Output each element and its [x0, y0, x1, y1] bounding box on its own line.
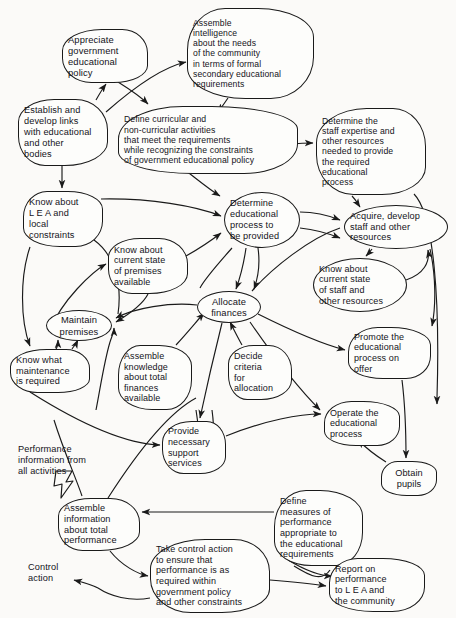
node-label: Allocate finances: [203, 296, 255, 318]
node-label: Determine the staff expertise and other …: [322, 116, 420, 188]
node-obtain-pupils[interactable]: Obtain pupils: [381, 461, 437, 496]
node-take-control-action[interactable]: Take control action to ensure that perfo…: [150, 539, 270, 613]
node-label: Know about current state of premises ava…: [114, 245, 182, 287]
node-label: Report on performance to L E A and the c…: [335, 564, 419, 606]
node-determine-staff-expertise[interactable]: Determine the staff expertise and other …: [316, 108, 426, 195]
node-report-performance[interactable]: Report on performance to L E A and the c…: [329, 558, 425, 612]
node-know-staff-state[interactable]: Know about current state of staff and ot…: [313, 258, 407, 312]
node-establish-links[interactable]: Establish and develop links with educati…: [18, 99, 108, 166]
node-know-lea[interactable]: Know about L E A and local constraints: [23, 191, 103, 247]
node-label: Assemble knowledge about total finances …: [124, 351, 186, 404]
node-maintain-premises[interactable]: Maintain premises: [46, 310, 112, 341]
node-label: Determine educational process to be prov…: [230, 198, 294, 241]
diagram-canvas: Appreciate government educational policy…: [0, 0, 456, 618]
node-acquire-develop-staff[interactable]: Acquire, develop staff and other resourc…: [344, 205, 448, 249]
node-allocate-finances[interactable]: Allocate finances: [197, 291, 261, 323]
node-label: Establish and develop links with educati…: [24, 105, 102, 159]
node-label: Take control action to ensure that perfo…: [156, 544, 264, 608]
label-control-action: Control action: [28, 562, 58, 584]
node-label: Promote the educational process on offer: [354, 332, 425, 374]
node-decide-criteria[interactable]: Decide criteria for allocation: [228, 345, 292, 400]
node-label: Acquire, develop staff and other resourc…: [350, 211, 442, 244]
node-label: Define curricular and non-curricular act…: [124, 114, 292, 165]
node-label: Operate the educational process: [330, 408, 394, 440]
node-define-performance-measures[interactable]: Define measures of performance appropria…: [274, 490, 363, 566]
node-label: Assemble intelligence about the needs of…: [193, 18, 308, 89]
node-label: Assemble information about total perform…: [64, 503, 134, 546]
node-know-maintenance-required[interactable]: Know what maintenance is required: [10, 349, 90, 393]
node-label: Decide criteria for allocation: [234, 351, 286, 393]
node-appreciate-policy[interactable]: Appreciate government educational policy: [62, 29, 148, 83]
node-label: Appreciate government educational policy: [68, 34, 142, 78]
node-label: Know what maintenance is required: [16, 355, 84, 388]
node-assemble-performance-info[interactable]: Assemble information about total perform…: [58, 498, 140, 551]
node-assemble-finance-knowledge[interactable]: Assemble knowledge about total finances …: [118, 345, 192, 410]
node-determine-educational-process[interactable]: Determine educational process to be prov…: [224, 192, 300, 248]
node-provide-support-services[interactable]: Provide necessary support services: [162, 421, 226, 474]
node-label: Provide necessary support services: [168, 426, 220, 468]
node-label: Define measures of performance appropria…: [280, 496, 357, 560]
open-arrow-performance-input: [52, 470, 78, 500]
node-label: Know about L E A and local constraints: [29, 197, 97, 240]
node-operate-process[interactable]: Operate the educational process: [324, 401, 400, 446]
node-know-premises-state[interactable]: Know about current state of premises ava…: [108, 238, 188, 294]
node-define-curricular[interactable]: Define curricular and non-curricular act…: [118, 106, 298, 174]
node-label: Maintain premises: [52, 314, 106, 336]
node-promote-process[interactable]: Promote the educational process on offer: [348, 327, 431, 379]
node-assemble-intelligence[interactable]: Assemble intelligence about the needs of…: [187, 8, 314, 99]
node-label: Obtain pupils: [387, 468, 431, 490]
node-label: Know about current state of staff and ot…: [319, 264, 401, 306]
